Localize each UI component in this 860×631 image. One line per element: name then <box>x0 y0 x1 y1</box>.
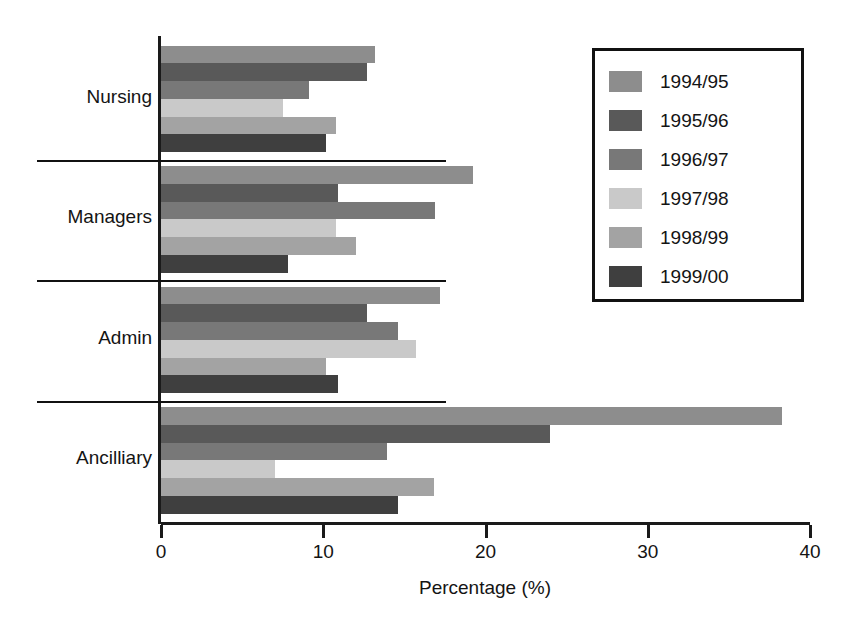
bar[interactable] <box>161 219 336 237</box>
legend-label: 1995/96 <box>660 110 729 132</box>
legend: 1994/951995/961996/971997/981998/991999/… <box>592 48 804 302</box>
legend-item[interactable]: 1998/99 <box>609 218 801 257</box>
bar[interactable] <box>161 46 375 64</box>
bar[interactable] <box>161 63 367 81</box>
bar[interactable] <box>161 81 309 99</box>
legend-item[interactable]: 1999/00 <box>609 257 801 296</box>
category-label: Ancilliary <box>4 447 152 469</box>
bar-row <box>161 443 810 461</box>
legend-item[interactable]: 1996/97 <box>609 140 801 179</box>
category-axis-labels: NursingManagersAdminAncilliary <box>0 0 152 631</box>
legend-swatch <box>609 188 642 209</box>
bar[interactable] <box>161 166 473 184</box>
bar[interactable] <box>161 340 416 358</box>
bar[interactable] <box>161 202 435 220</box>
bar-row <box>161 304 810 322</box>
bar[interactable] <box>161 99 283 117</box>
category-label: Managers <box>4 206 152 228</box>
legend-item[interactable]: 1997/98 <box>609 179 801 218</box>
bar[interactable] <box>161 287 440 305</box>
bar[interactable] <box>161 184 338 202</box>
x-axis-tick <box>160 525 163 538</box>
legend-swatch <box>609 227 642 248</box>
bar-row <box>161 322 810 340</box>
x-axis-tick <box>809 525 812 538</box>
bar[interactable] <box>161 425 550 443</box>
legend-swatch <box>609 266 642 287</box>
x-axis-tick <box>647 525 650 538</box>
bar-row <box>161 478 810 496</box>
legend-label: 1999/00 <box>660 266 729 288</box>
bar[interactable] <box>161 322 398 340</box>
bar-group <box>161 407 810 514</box>
x-axis-tick <box>322 525 325 538</box>
bar-row <box>161 425 810 443</box>
legend-item[interactable]: 1995/96 <box>609 101 801 140</box>
x-axis-tick-label: 0 <box>156 541 167 563</box>
bar-row <box>161 407 810 425</box>
bar[interactable] <box>161 134 326 152</box>
bar[interactable] <box>161 478 434 496</box>
legend-swatch <box>609 71 642 92</box>
x-axis-tick-label: 20 <box>475 541 496 563</box>
legend-label: 1997/98 <box>660 188 729 210</box>
bar[interactable] <box>161 407 782 425</box>
legend-item[interactable]: 1994/95 <box>609 62 801 101</box>
x-axis-tick-label: 30 <box>637 541 658 563</box>
bar[interactable] <box>161 443 387 461</box>
bar-chart: NursingManagersAdminAncilliary 010203040… <box>0 0 860 631</box>
x-axis-title: Percentage (%) <box>0 577 860 599</box>
group-separator <box>37 401 446 403</box>
bar-group <box>161 287 810 394</box>
bar-row <box>161 340 810 358</box>
legend-swatch <box>609 149 642 170</box>
group-separator <box>37 280 446 282</box>
category-label: Nursing <box>4 86 152 108</box>
bar[interactable] <box>161 358 326 376</box>
legend-label: 1994/95 <box>660 71 729 93</box>
x-axis-tick-label: 40 <box>799 541 820 563</box>
bar[interactable] <box>161 304 367 322</box>
bar[interactable] <box>161 496 398 514</box>
bar-row <box>161 375 810 393</box>
bar[interactable] <box>161 460 275 478</box>
bar[interactable] <box>161 375 338 393</box>
group-separator <box>37 160 446 162</box>
x-axis-tick-label: 10 <box>313 541 334 563</box>
x-axis-tick <box>485 525 488 538</box>
bar-row <box>161 358 810 376</box>
category-label: Admin <box>4 327 152 349</box>
bar[interactable] <box>161 237 356 255</box>
legend-label: 1996/97 <box>660 149 729 171</box>
bar-row <box>161 460 810 478</box>
legend-swatch <box>609 110 642 131</box>
bar[interactable] <box>161 255 288 273</box>
bar[interactable] <box>161 117 336 135</box>
bar-row <box>161 496 810 514</box>
legend-label: 1998/99 <box>660 227 729 249</box>
